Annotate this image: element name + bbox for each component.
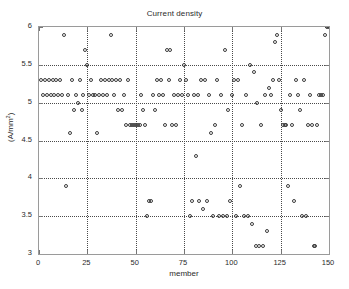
scatter-point	[323, 33, 327, 37]
scatter-point	[105, 93, 109, 97]
scatter-point	[138, 123, 142, 127]
scatter-point	[207, 93, 211, 97]
scatter-point	[163, 123, 167, 127]
scatter-point	[145, 214, 149, 218]
scatter-point	[70, 78, 74, 82]
scatter-point	[277, 78, 281, 82]
scatter-point	[109, 33, 113, 37]
scatter-point	[267, 86, 271, 90]
scatter-point	[112, 93, 116, 97]
scatter-point	[68, 131, 72, 135]
scatter-point	[197, 199, 201, 203]
scatter-point	[215, 78, 219, 82]
y-axis-tick-label: 3	[2, 248, 32, 257]
scatter-point	[64, 184, 68, 188]
x-axis-tick-label: 125	[265, 258, 295, 267]
scatter-point	[244, 93, 248, 97]
scatter-point	[78, 78, 82, 82]
scatter-data-layer	[39, 27, 329, 254]
y-axis-label-text: (A/mm	[6, 118, 15, 142]
scatter-point	[248, 63, 252, 67]
scatter-point	[265, 229, 269, 233]
scatter-point	[225, 214, 229, 218]
scatter-point	[240, 123, 244, 127]
scatter-point	[60, 93, 64, 97]
scatter-point	[304, 214, 308, 218]
scatter-point	[209, 131, 213, 135]
scatter-point	[120, 108, 124, 112]
scatter-point	[161, 93, 165, 97]
x-axis-tick-label: 25	[71, 258, 101, 267]
scatter-point	[327, 27, 329, 29]
scatter-point	[219, 93, 223, 97]
scatter-point	[273, 40, 277, 44]
scatter-point	[143, 123, 147, 127]
scatter-point	[151, 93, 155, 97]
scatter-point	[168, 48, 172, 52]
scatter-point	[178, 78, 182, 82]
scatter-point	[259, 123, 263, 127]
scatter-point	[174, 123, 178, 127]
scatter-point	[236, 78, 240, 82]
scatter-point	[271, 78, 275, 82]
scatter-point	[315, 123, 319, 127]
scatter-point	[205, 199, 209, 203]
scatter-point	[180, 93, 184, 97]
scatter-point	[153, 108, 157, 112]
scatter-point	[269, 93, 273, 97]
x-axis-tick-label: 75	[168, 258, 198, 267]
scatter-point	[298, 108, 302, 112]
x-axis-tick-label: 100	[216, 258, 246, 267]
scatter-point	[126, 78, 130, 82]
scatter-point	[66, 93, 70, 97]
scatter-point	[196, 93, 200, 97]
scatter-point	[72, 108, 76, 112]
scatter-point	[288, 93, 292, 97]
scatter-point	[85, 63, 89, 67]
y-axis-label-exponent: 2	[5, 115, 11, 118]
scatter-point	[246, 214, 250, 218]
scatter-point	[321, 93, 325, 97]
scatter-point	[302, 78, 306, 82]
y-axis-tick-label: 6	[2, 21, 32, 30]
y-axis-label: (A/mm2)	[5, 97, 16, 157]
scatter-point	[58, 78, 62, 82]
scatter-point	[74, 93, 78, 97]
plot-axes	[38, 26, 330, 255]
y-axis-tick-label: 4	[2, 172, 32, 181]
scatter-point	[255, 101, 259, 105]
scatter-point	[167, 78, 171, 82]
scatter-point	[62, 33, 66, 37]
scatter-point	[80, 108, 84, 112]
scatter-point	[310, 123, 314, 127]
scatter-point	[261, 244, 265, 248]
x-axis-label: member	[38, 269, 330, 278]
scatter-point	[186, 93, 190, 97]
x-axis-tick-label: 150	[313, 258, 343, 267]
scatter-point	[294, 78, 298, 82]
scatter-point	[213, 123, 217, 127]
scatter-point	[296, 93, 300, 97]
scatter-point	[238, 184, 242, 188]
scatter-point	[159, 78, 163, 82]
scatter-point	[83, 48, 87, 52]
scatter-point	[141, 108, 145, 112]
scatter-point	[279, 108, 283, 112]
scatter-point	[308, 93, 312, 97]
scatter-point	[139, 93, 143, 97]
scatter-point	[89, 78, 93, 82]
y-axis-label-tail: )	[6, 113, 15, 116]
scatter-point	[76, 101, 80, 105]
page-title: Current density	[0, 9, 349, 18]
scatter-point	[228, 199, 232, 203]
scatter-point	[234, 214, 238, 218]
scatter-point	[263, 93, 267, 97]
scatter-point	[290, 123, 294, 127]
scatter-point	[182, 63, 186, 67]
y-axis-tick-label: 5.5	[2, 59, 32, 68]
scatter-point	[250, 222, 254, 226]
scatter-point	[284, 123, 288, 127]
x-axis-tick-label: 50	[120, 258, 150, 267]
figure-canvas: Current density 0255075100125150 33.544.…	[0, 0, 349, 289]
scatter-point	[118, 78, 122, 82]
